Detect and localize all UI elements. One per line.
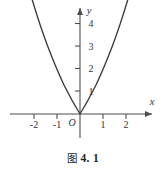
- y-axis-label: y: [86, 5, 92, 16]
- y-tick-label-1: 1: [89, 86, 94, 97]
- y-tick-label-2: 2: [89, 63, 94, 74]
- y-tick-label-3: 3: [89, 41, 94, 52]
- y-axis-arrow-icon: [77, 8, 83, 15]
- origin-label: O: [68, 117, 75, 128]
- figure-caption-prefix: 图: [67, 152, 77, 164]
- figure-caption: 图 4. 1: [0, 150, 166, 165]
- x-tick-label-1: 1: [101, 119, 106, 130]
- plot-area: x y O -2 -1 1 2 1 2 3 4: [0, 0, 166, 146]
- x-axis-arrow-icon: [145, 111, 152, 117]
- x-tick-label-2: 2: [124, 119, 129, 130]
- figure-caption-number: 4. 1: [80, 152, 99, 164]
- x-axis-label: x: [149, 96, 155, 107]
- x-tick-label-minus1: -1: [53, 119, 61, 130]
- coordinate-plot: x y O -2 -1 1 2 1 2 3 4: [0, 0, 166, 146]
- x-tick-label-minus2: -2: [30, 119, 38, 130]
- y-tick-label-4: 4: [89, 18, 94, 29]
- figure-container: x y O -2 -1 1 2 1 2 3 4 图 4. 1: [0, 0, 166, 174]
